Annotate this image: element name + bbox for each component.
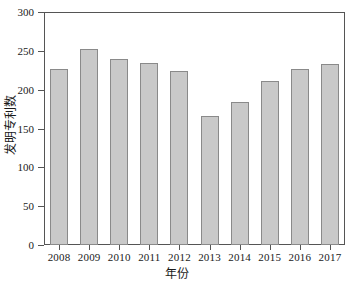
y-axis-tick-label: 50 xyxy=(0,201,34,212)
x-axis-title: 年份 xyxy=(0,268,353,281)
x-axis-tick-label: 2017 xyxy=(310,251,350,263)
bar xyxy=(291,69,309,245)
y-axis-tick-label: 150 xyxy=(0,124,34,135)
bar-chart-figure: 发明专利数 年份 0501001502002503002008200920102… xyxy=(0,0,353,289)
x-axis-tick xyxy=(179,245,180,250)
y-axis-tick-label: 100 xyxy=(0,162,34,173)
y-axis-tick xyxy=(38,167,44,168)
bar xyxy=(80,49,98,245)
bar xyxy=(261,81,279,245)
y-axis-tick-label: 0 xyxy=(0,240,34,251)
x-axis-tick xyxy=(89,245,90,250)
x-axis-tick xyxy=(119,245,120,250)
x-axis-tick xyxy=(210,245,211,250)
bar xyxy=(50,69,68,245)
bar xyxy=(231,102,249,245)
y-axis-tick-label: 250 xyxy=(0,46,34,57)
bar xyxy=(140,63,158,245)
y-axis-tick xyxy=(38,51,44,52)
bar xyxy=(110,59,128,245)
x-axis-tick xyxy=(300,245,301,250)
y-axis-tick xyxy=(38,245,44,246)
bar xyxy=(321,64,339,245)
x-axis-tick xyxy=(59,245,60,250)
bars-layer xyxy=(44,12,345,245)
bar xyxy=(170,71,188,245)
y-axis-tick-label: 300 xyxy=(0,7,34,18)
x-axis-tick xyxy=(240,245,241,250)
y-axis-tick xyxy=(38,129,44,130)
y-axis-tick-label: 200 xyxy=(0,85,34,96)
x-axis-tick xyxy=(149,245,150,250)
bar xyxy=(201,116,219,245)
x-axis-tick xyxy=(330,245,331,250)
x-axis-tick xyxy=(270,245,271,250)
y-axis-tick xyxy=(38,206,44,207)
y-axis-tick xyxy=(38,90,44,91)
y-axis-tick xyxy=(38,12,44,13)
